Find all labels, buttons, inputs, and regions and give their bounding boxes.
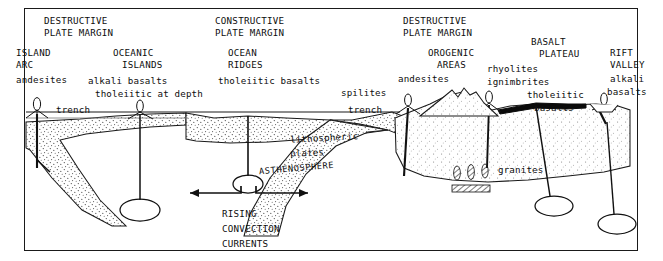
label-basalt-plateau-line2: PLATEAU: [539, 49, 579, 58]
label-oceanic-islands-line1: OCEANIC: [113, 48, 153, 57]
label-trench-right: trench: [348, 105, 382, 114]
label-orogenic-areas-line1: OROGENIC: [428, 48, 474, 57]
label-basalt-plateau-line1: BASALT: [531, 37, 566, 46]
label-constructive-margin-line2: PLATE MARGIN: [215, 28, 284, 37]
diagram-canvas: DESTRUCTIVE PLATE MARGIN CONSTRUCTIVE PL…: [0, 0, 663, 261]
label-oceanic-islands-rock-alkali-basalts: alkali basalts: [88, 76, 168, 85]
label-destructive-margin-left-line1: DESTRUCTIVE: [44, 16, 108, 25]
label-rift-valley-line1: RIFT: [610, 48, 633, 57]
label-granites: granites: [498, 165, 543, 174]
label-convection-line2: CONVECTION: [222, 224, 280, 233]
label-ocean-ridges-line2: RIDGES: [228, 60, 263, 69]
label-oceanic-islands-line2: ISLANDS: [122, 60, 162, 69]
label-basalt-plateau-rock-tholeiitic: tholeiitic: [527, 90, 584, 99]
label-destructive-margin-right-line1: DESTRUCTIVE: [403, 16, 467, 25]
label-island-arc-line2: ARC: [16, 60, 33, 69]
label-rift-valley-line2: VALLEY: [610, 60, 645, 69]
label-spilites: spilites: [341, 88, 386, 97]
label-trench-left: trench: [56, 105, 90, 114]
label-orogenic-areas-line2: AREAS: [437, 60, 466, 69]
label-convection-line3: CURRENTS: [222, 239, 268, 248]
label-rift-valley-rock-alkali: alkali: [610, 74, 644, 83]
label-rift-valley-rock-basalts: basalts: [607, 87, 647, 96]
label-basalt-plateau-rock-basalts: basalts: [534, 103, 574, 112]
label-basalt-plateau-rock-rhyolites: rhyolites: [487, 64, 538, 73]
label-destructive-margin-right-line2: PLATE MARGIN: [403, 28, 472, 37]
label-ocean-ridges-line1: OCEAN: [228, 48, 257, 57]
granite-plutons: [452, 164, 490, 192]
label-constructive-margin-line1: CONSTRUCTIVE: [215, 16, 284, 25]
mountain-range: [420, 88, 498, 116]
label-lithospheric-plates-line2: plates: [290, 147, 324, 158]
label-basalt-plateau-rock-ignimbrites: ignimbrites: [487, 77, 550, 86]
label-convection-line1: RISING: [222, 209, 257, 218]
label-destructive-margin-left-line2: PLATE MARGIN: [44, 28, 113, 37]
label-island-arc-rock-andesites: andesites: [16, 75, 67, 84]
label-ocean-ridges-rock-tholeiitic-basalts: tholeiitic basalts: [218, 76, 320, 85]
label-orogenic-rock-andesites: andesites: [398, 74, 449, 83]
label-island-arc-line1: ISLAND: [16, 48, 51, 57]
label-oceanic-islands-rock-tholeiitic: tholeiitic at depth: [95, 89, 203, 98]
